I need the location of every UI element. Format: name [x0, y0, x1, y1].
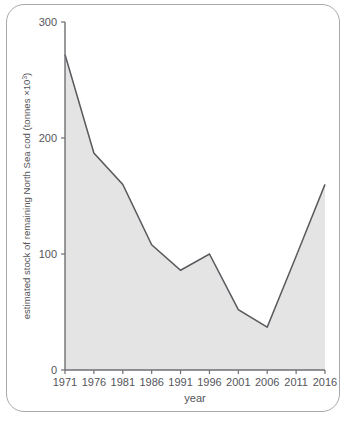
y-tick-label-300: 300	[39, 16, 57, 28]
y-tick-label-200: 200	[39, 132, 57, 144]
x-axis-title: year	[184, 392, 206, 404]
x-tick-label-2016: 2016	[313, 376, 337, 388]
x-tick-label-1976: 1976	[82, 376, 106, 388]
x-tick-label-1981: 1981	[111, 376, 135, 388]
x-tick-label-1996: 1996	[197, 376, 221, 388]
area-fill-cod-stock	[65, 54, 325, 370]
y-tick-label-0: 0	[51, 364, 57, 376]
x-axis-tick-labels: 1971197619811986199119962001200620112016	[53, 376, 337, 388]
figure-caption-strip	[0, 414, 352, 423]
y-axis-title: estimated stock of remaining North Sea c…	[21, 73, 33, 320]
x-tick-label-1986: 1986	[139, 376, 163, 388]
x-tick-label-1991: 1991	[168, 376, 192, 388]
cod-stock-area-chart: 0100200300 19711976198119861991199620012…	[0, 0, 352, 423]
y-axis-tick-labels: 0100200300	[39, 16, 57, 376]
y-tick-label-100: 100	[39, 248, 57, 260]
x-tick-label-2006: 2006	[255, 376, 279, 388]
x-tick-label-2001: 2001	[226, 376, 250, 388]
x-tick-label-1971: 1971	[53, 376, 77, 388]
x-tick-label-2011: 2011	[284, 376, 308, 388]
